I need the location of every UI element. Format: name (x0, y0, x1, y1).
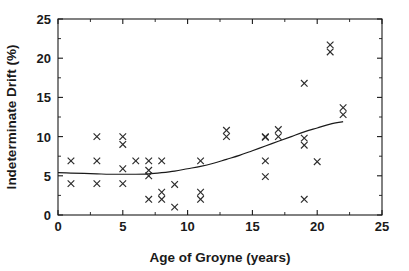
x-axis-title: Age of Groyne (years) (149, 250, 290, 265)
data-point-marker (223, 127, 230, 134)
data-point-marker (158, 158, 165, 165)
plot-frame (58, 19, 382, 215)
data-point-marker (275, 133, 282, 140)
data-point-marker (327, 49, 334, 56)
y-axis-title: Indeterminate Drift (%) (4, 45, 19, 190)
data-point-marker (145, 167, 152, 174)
data-point-marker (158, 189, 165, 196)
data-point-marker (145, 158, 152, 165)
data-point-marker (145, 196, 152, 203)
y-tick-label: 10 (37, 130, 51, 145)
x-tick-label: 25 (375, 219, 389, 234)
x-tick-label: 5 (119, 219, 126, 234)
y-tick-label: 0 (44, 208, 51, 223)
y-tick-label: 25 (37, 12, 51, 27)
data-point-marker (158, 196, 165, 203)
x-tick-label: 20 (310, 219, 324, 234)
data-point-marker (301, 142, 308, 149)
data-point-marker (120, 165, 127, 172)
x-tick-label: 10 (180, 219, 194, 234)
y-tick-label: 15 (37, 90, 51, 105)
data-point-marker (197, 158, 204, 165)
data-point-marker (197, 196, 204, 203)
data-point-marker (120, 133, 127, 140)
data-point-marker (68, 158, 75, 165)
data-point-marker (223, 133, 230, 140)
y-tick-label: 20 (37, 51, 51, 66)
data-point-marker (262, 173, 269, 180)
fit-curve (58, 122, 343, 175)
data-point-marker (340, 104, 347, 111)
data-point-marker (68, 180, 75, 187)
data-point-marker (94, 180, 101, 187)
data-point-marker (94, 158, 101, 165)
data-point-marker (171, 204, 178, 211)
data-point-marker (132, 158, 139, 165)
data-point-marker (120, 180, 127, 187)
trend-curve-path (58, 122, 343, 175)
data-point-marker (340, 111, 347, 118)
data-point-marker (262, 134, 269, 141)
data-point-marker (314, 158, 321, 165)
data-point-marker (301, 135, 308, 142)
data-points (68, 42, 347, 211)
data-point-marker (262, 158, 269, 165)
scatter-plot-svg: 05101520250510152025 Age of Groyne (year… (0, 0, 409, 271)
x-tick-label: 0 (54, 219, 61, 234)
data-point-marker (171, 181, 178, 188)
data-point-marker (301, 80, 308, 87)
data-point-marker (94, 133, 101, 140)
x-tick-label: 15 (245, 219, 259, 234)
data-point-marker (327, 42, 334, 49)
y-tick-label: 5 (44, 169, 51, 184)
data-point-marker (275, 126, 282, 133)
axis-ticks (58, 19, 382, 215)
data-point-marker (197, 189, 204, 196)
data-point-marker (301, 196, 308, 203)
data-point-marker (120, 141, 127, 148)
chart-figure: 05101520250510152025 Age of Groyne (year… (0, 0, 409, 271)
